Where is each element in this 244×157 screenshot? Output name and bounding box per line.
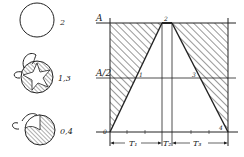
state-label-1-3: 1,3 (58, 74, 71, 83)
state-label-0-4: 0,4 (60, 127, 73, 136)
state-open-circle: 2 (20, 3, 65, 37)
state-sector-circle: 0,4 (12, 114, 72, 145)
state-label-2: 2 (59, 18, 65, 27)
interval-label-t2: T₂ (163, 139, 172, 148)
point-label-0: 0 (103, 128, 107, 135)
point-label-3: 3 (192, 71, 196, 78)
state-star-circle: 1,3 (14, 53, 71, 93)
interval-label-t1: T₁ (129, 139, 138, 148)
trapezoid-diagram: A A/2 0 1 2 3 4 T₁ T₂ T₃ (95, 13, 238, 148)
point-label-1: 1 (139, 71, 143, 78)
interval-label-t3: T₃ (193, 139, 202, 148)
point-label-2: 2 (163, 15, 168, 22)
point-label-4: 4 (218, 124, 223, 131)
diagram-figure: 2 1,3 0,4 (0, 0, 244, 157)
axis-label-a: A (95, 13, 103, 23)
axis-label-a-half: A/2 (95, 68, 112, 78)
